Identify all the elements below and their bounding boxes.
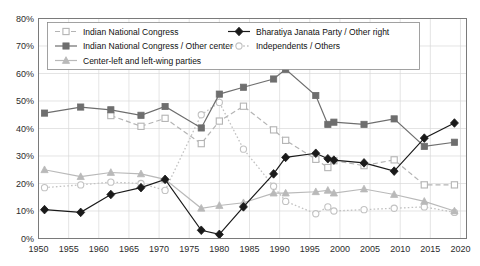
x-axis-tick-label: 1955 [59,244,79,254]
y-axis-tick-label: 10% [16,206,34,216]
data-point [78,182,84,188]
data-point [41,166,48,173]
chart-legend: Indian National CongressIndian National … [48,23,420,70]
data-point [451,182,457,188]
data-point [216,118,222,124]
x-axis-tick-label: 1975 [179,244,199,254]
data-point [162,187,168,193]
data-point [138,112,144,118]
data-point [107,190,115,199]
x-axis-tick-label: 1950 [28,244,48,254]
data-point [240,103,246,109]
data-point [216,91,222,97]
data-point [391,205,397,211]
y-axis-tick-label: 80% [16,14,34,24]
data-point [162,103,168,109]
data-point [240,146,246,152]
data-point [421,182,427,188]
data-point [313,211,319,217]
data-point [108,107,114,113]
data-point [198,112,204,118]
x-axis-tick-label: 2020 [450,244,470,254]
data-point [283,198,289,204]
x-axis-tick-label: 2005 [360,244,380,254]
data-point [270,127,276,133]
data-point [331,119,337,125]
data-point [108,179,114,185]
data-point [270,183,276,189]
data-point [240,84,246,90]
data-point [325,164,331,170]
data-point [108,112,114,118]
data-point [391,157,397,163]
y-axis-tick-label: 40% [16,124,34,134]
data-point [77,208,85,217]
data-point [325,204,331,210]
legend-label: Indian National Congress / Other center [83,41,233,51]
y-axis-tick-label: 30% [16,151,34,161]
y-axis-tick-label: 60% [16,69,34,79]
y-axis-tick-labels: 0%10%20%30%40%50%60%70%80% [16,14,34,244]
data-point [283,137,289,143]
data-point [41,110,47,116]
data-point [361,207,367,213]
data-point [41,185,47,191]
data-point [138,123,144,129]
x-axis-tick-label: 1985 [239,244,259,254]
legend-label: Center-left and left-wing parties [83,56,201,66]
data-point [451,139,457,145]
y-axis-tick-label: 50% [16,96,34,106]
x-axis-tick-label: 1990 [270,244,290,254]
legend-swatch-marker [236,43,242,49]
x-axis-tick-label: 1965 [119,244,139,254]
x-axis-tick-label: 1980 [209,244,229,254]
legend-label: Independents / Others [256,41,340,51]
line-chart: 0%10%20%30%40%50%60%70%80% 1950195519601… [0,0,480,266]
data-point [360,185,367,192]
data-point [331,208,337,214]
chart-container: 0%10%20%30%40%50%60%70%80% 1950195519601… [0,0,480,266]
data-point [270,76,276,82]
x-axis-tick-label: 1995 [300,244,320,254]
x-axis-tick-label: 2000 [330,244,350,254]
x-axis-tick-label: 2010 [390,244,410,254]
data-point [198,141,204,147]
legend-swatch-marker [63,43,69,49]
data-point [313,92,319,98]
data-point [162,115,168,121]
y-axis-tick-label: 20% [16,179,34,189]
x-axis-tick-label: 2015 [420,244,440,254]
legend-label: Indian National Congress [83,27,178,37]
legend-swatch-marker [63,28,69,34]
x-axis-tick-label: 1970 [149,244,169,254]
data-point [325,121,331,127]
data-point [216,99,222,105]
data-point [361,121,367,127]
x-axis-tick-labels: 1950195519601965197019751980198519901995… [28,244,470,254]
data-point [41,205,49,214]
data-point [421,143,427,149]
data-point [421,204,427,210]
x-axis-tick-label: 1960 [89,244,109,254]
y-axis-tick-label: 0% [21,234,34,244]
legend-label: Bharatiya Janata Party / Other right [256,27,390,37]
data-point [78,104,84,110]
data-point [450,119,458,128]
data-point [391,116,397,122]
series-0 [108,103,458,188]
data-point [198,125,204,131]
data-point [324,187,331,194]
y-axis-tick-label: 70% [16,41,34,51]
